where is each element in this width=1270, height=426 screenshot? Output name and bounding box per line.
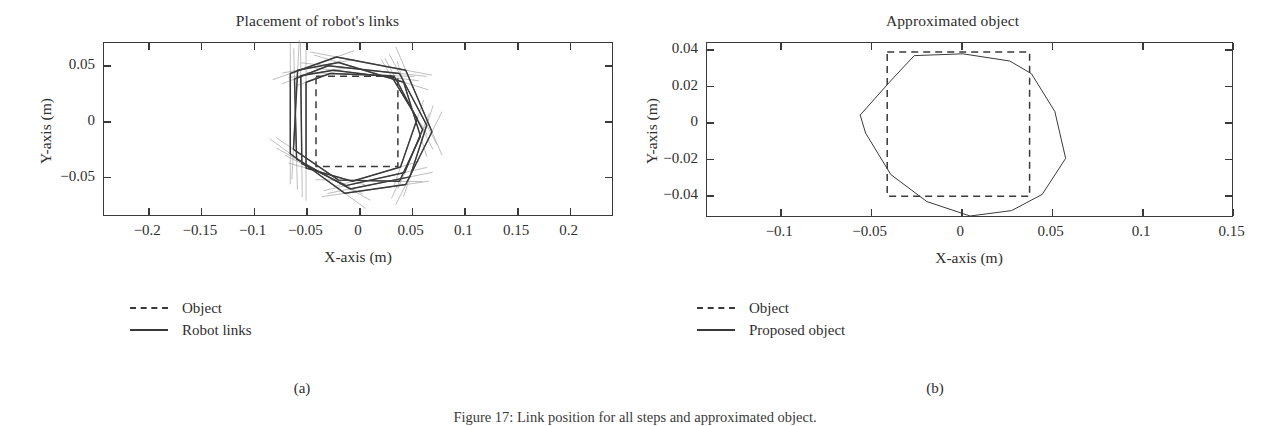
y-tick xyxy=(1225,195,1232,197)
x-tick xyxy=(359,208,361,215)
x-tick xyxy=(517,43,519,50)
y-tick xyxy=(707,195,714,197)
legend-item-object: Object xyxy=(128,297,252,319)
y-tick xyxy=(1225,159,1232,161)
x-tick-label: 0.15 xyxy=(1218,223,1244,240)
x-tick xyxy=(1233,43,1235,50)
x-tick-label: −0.05 xyxy=(852,223,887,240)
solid-line-key-icon xyxy=(128,324,170,336)
subcaption-b: (b) xyxy=(926,380,944,397)
x-tick-label: −0.1 xyxy=(239,222,266,239)
x-tick xyxy=(1142,209,1144,216)
x-tick-label: 0.05 xyxy=(398,222,424,239)
x-tick xyxy=(148,43,150,50)
x-tick-label: −0.15 xyxy=(183,222,218,239)
x-tick xyxy=(464,208,466,215)
x-tick xyxy=(254,208,256,215)
y-tick xyxy=(1225,122,1232,124)
panel-b-y-axis-label: Y-axis (m) xyxy=(643,71,661,191)
x-tick xyxy=(412,208,414,215)
dashed-line-key-icon xyxy=(695,302,737,314)
legend-item-robot-links: Robot links xyxy=(128,319,252,341)
y-tick xyxy=(1225,49,1232,51)
x-tick xyxy=(306,208,308,215)
legend-label-proposed-object: Proposed object xyxy=(749,322,845,339)
x-tick xyxy=(871,43,873,50)
y-tick xyxy=(104,65,111,67)
y-tick xyxy=(104,177,111,179)
x-tick-label: 0.05 xyxy=(1038,223,1064,240)
y-tick xyxy=(707,122,714,124)
y-tick xyxy=(1225,86,1232,88)
x-tick xyxy=(961,43,963,50)
y-tick xyxy=(605,65,612,67)
x-tick xyxy=(1052,43,1054,50)
y-tick xyxy=(707,86,714,88)
x-tick xyxy=(780,43,782,50)
x-tick xyxy=(780,209,782,216)
x-tick xyxy=(148,208,150,215)
y-tick xyxy=(707,159,714,161)
dashed-line-key-icon xyxy=(128,302,170,314)
x-tick xyxy=(871,209,873,216)
panel-a: Placement of robot's links −0.2−0.15−0.1… xyxy=(0,0,635,422)
x-tick xyxy=(464,43,466,50)
x-tick xyxy=(517,208,519,215)
x-tick xyxy=(961,209,963,216)
x-tick xyxy=(201,43,203,50)
panel-a-y-axis-label: Y-axis (m) xyxy=(37,71,55,191)
x-tick xyxy=(412,43,414,50)
panel-b-plot-area xyxy=(706,42,1233,217)
x-tick-label: 0.15 xyxy=(503,222,529,239)
x-tick xyxy=(570,43,572,50)
panel-a-legend: Object Robot links xyxy=(128,297,252,341)
panel-b-plot-svg xyxy=(707,43,1232,216)
panel-a-title: Placement of robot's links xyxy=(0,12,635,30)
panel-b-title: Approximated object xyxy=(635,12,1270,30)
y-tick xyxy=(104,121,111,123)
x-tick xyxy=(1052,209,1054,216)
x-tick xyxy=(254,43,256,50)
solid-line-key-icon xyxy=(695,324,737,336)
x-tick-label: −0.1 xyxy=(766,223,793,240)
y-tick-label: 0.04 xyxy=(635,40,698,57)
y-tick xyxy=(605,177,612,179)
x-tick xyxy=(306,43,308,50)
x-tick-label: 0.1 xyxy=(1132,223,1151,240)
panel-a-plot-area xyxy=(103,42,613,216)
legend-label-object: Object xyxy=(749,300,789,317)
x-tick-label: 0 xyxy=(354,222,362,239)
y-tick xyxy=(707,49,714,51)
x-tick xyxy=(201,208,203,215)
subcaption-a: (a) xyxy=(294,380,311,397)
x-tick xyxy=(1142,43,1144,50)
panel-a-x-axis-label: X-axis (m) xyxy=(324,248,392,266)
panel-b: Approximated object −0.1−0.0500.050.10.1… xyxy=(635,0,1270,422)
x-tick xyxy=(570,208,572,215)
x-tick-label: 0.1 xyxy=(454,222,473,239)
x-tick-label: 0.2 xyxy=(559,222,578,239)
x-tick-label: 0 xyxy=(956,223,964,240)
x-tick-label: −0.2 xyxy=(134,222,161,239)
legend-label-object: Object xyxy=(182,300,222,317)
x-tick xyxy=(1233,209,1235,216)
y-tick xyxy=(605,121,612,123)
x-tick-label: −0.05 xyxy=(288,222,323,239)
figure-caption: Figure 17: Link position for all steps a… xyxy=(0,409,1270,426)
legend-item-proposed-object: Proposed object xyxy=(695,319,845,341)
panel-b-legend: Object Proposed object xyxy=(695,297,845,341)
panel-b-x-axis-label: X-axis (m) xyxy=(935,249,1003,267)
panel-a-plot-svg xyxy=(104,43,612,215)
legend-label-robot-links: Robot links xyxy=(182,322,252,339)
legend-item-object: Object xyxy=(695,297,845,319)
x-tick xyxy=(359,43,361,50)
